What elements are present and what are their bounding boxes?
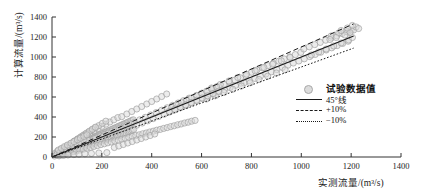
scatter-point bbox=[88, 150, 94, 156]
scatter-point bbox=[192, 117, 198, 123]
scatter-point bbox=[152, 131, 158, 137]
scatter-point bbox=[103, 118, 109, 124]
y-tick-label: 1000 bbox=[21, 52, 47, 62]
scatter-point bbox=[327, 36, 333, 42]
legend-item-minus10: −10% bbox=[296, 116, 382, 127]
scatter-point bbox=[76, 151, 82, 157]
scatter-point bbox=[164, 91, 170, 97]
y-tick-marks bbox=[52, 17, 56, 157]
x-tick-label: 600 bbox=[187, 161, 217, 171]
x-tick-label: 1200 bbox=[336, 161, 366, 171]
scatter-point bbox=[82, 151, 88, 157]
chart-legend: 试验数据值 45°线 +10% −10% bbox=[296, 83, 382, 127]
y-tick-label: 1400 bbox=[21, 12, 47, 22]
solid-line-icon bbox=[296, 94, 322, 105]
scatter-point bbox=[104, 150, 110, 156]
y-tick-label: 600 bbox=[21, 92, 47, 102]
x-tick-label: 0 bbox=[37, 161, 67, 171]
y-tick-label: 1200 bbox=[21, 32, 47, 42]
x-tick-label: 1000 bbox=[286, 161, 316, 171]
legend-label-minus10: −10% bbox=[326, 115, 346, 125]
x-axis-title: 实测流量/(m³/s) bbox=[318, 175, 384, 189]
y-tick-label: 0 bbox=[21, 152, 47, 162]
scatter-point bbox=[96, 150, 102, 156]
y-tick-label: 200 bbox=[21, 132, 47, 142]
scatter-point bbox=[92, 124, 98, 130]
legend-label-plus10: +10% bbox=[326, 104, 346, 114]
scatter-point bbox=[278, 58, 284, 64]
scatter-point bbox=[273, 70, 279, 76]
x-tick-label: 1400 bbox=[386, 161, 416, 171]
x-tick-label: 200 bbox=[87, 161, 117, 171]
scatter-point bbox=[356, 25, 362, 31]
dashed-line-icon bbox=[296, 105, 322, 116]
x-tick-label: 400 bbox=[137, 161, 167, 171]
y-tick-label: 800 bbox=[21, 72, 47, 82]
scatter-point bbox=[84, 132, 90, 138]
dotted-line-icon bbox=[296, 116, 322, 127]
y-tick-label: 400 bbox=[21, 112, 47, 122]
scatter-point bbox=[270, 61, 276, 67]
scatter-chart: 计算流量/(m³/s) 实测流量/(m³/s) 0200400600800100… bbox=[0, 0, 428, 194]
scatter-point bbox=[333, 34, 339, 40]
scatter-point bbox=[287, 54, 293, 60]
scatter-point bbox=[261, 64, 267, 70]
scatter-point bbox=[282, 67, 288, 73]
x-tick-label: 800 bbox=[236, 161, 266, 171]
scatter-marker-icon bbox=[296, 83, 322, 94]
